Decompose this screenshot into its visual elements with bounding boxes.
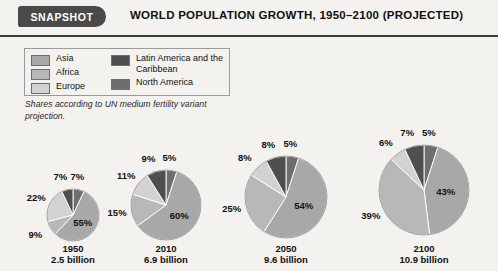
pie-label-2010-north: 5% xyxy=(163,152,177,163)
pie-label-2050-europe: 8% xyxy=(238,152,252,163)
pie-label-1950-latin: 7% xyxy=(53,171,67,182)
pie-label-2010-asia: 60% xyxy=(170,210,189,221)
pie-label-1950-africa: 9% xyxy=(28,229,42,240)
pie-population-2100: 10.9 billion xyxy=(374,254,474,265)
pie-caption-2100: 210010.9 billion xyxy=(374,243,474,265)
pie-label-1950-asia: 55% xyxy=(73,217,92,228)
pie-caption-2010: 20106.9 billion xyxy=(116,243,216,265)
pie-label-2100-africa: 39% xyxy=(361,210,380,221)
pie-label-2100-asia: 43% xyxy=(436,186,455,197)
pie-population-2010: 6.9 billion xyxy=(116,254,216,265)
pie-label-2100-north: 5% xyxy=(422,127,436,138)
pie-label-2050-africa: 25% xyxy=(222,203,241,214)
pie-label-1950-europe: 22% xyxy=(27,192,46,203)
pie-label-2050-asia: 54% xyxy=(294,200,313,211)
pie-label-2010-latin: 9% xyxy=(142,153,156,164)
pie-chart-group: 7%55%9%22%7%19502.5 billion5%60%15%11%9%… xyxy=(0,0,498,271)
pie-label-2010-europe: 11% xyxy=(117,170,136,181)
pie-year-2050: 2050 xyxy=(236,243,336,254)
pie-label-2050-north: 5% xyxy=(283,138,297,149)
snapshot-figure: SNAPSHOT WORLD POPULATION GROWTH, 1950–2… xyxy=(0,0,498,271)
pie-year-2010: 2010 xyxy=(116,243,216,254)
pie-label-2100-europe: 6% xyxy=(379,137,393,148)
pie-label-2010-africa: 15% xyxy=(108,207,127,218)
pie-label-2050-latin: 8% xyxy=(262,139,276,150)
pie-label-2100-latin: 7% xyxy=(400,127,414,138)
pie-year-1950: 1950 xyxy=(23,243,123,254)
pie-year-2100: 2100 xyxy=(374,243,474,254)
pie-population-1950: 2.5 billion xyxy=(23,254,123,265)
pie-population-2050: 9.6 billion xyxy=(236,254,336,265)
pie-caption-2050: 20509.6 billion xyxy=(236,243,336,265)
pie-caption-1950: 19502.5 billion xyxy=(23,243,123,265)
pie-label-1950-north: 7% xyxy=(71,171,85,182)
